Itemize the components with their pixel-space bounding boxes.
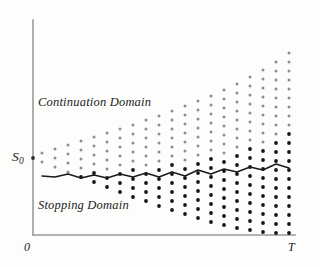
lattice-node-continuation (145, 164, 148, 167)
lattice-node-stopping (157, 186, 161, 190)
lattice-node-continuation (223, 116, 226, 119)
lattice-node-continuation (236, 128, 239, 131)
s0-tick-mark (31, 156, 35, 160)
lattice-node-stopping (144, 190, 148, 194)
lattice-node-continuation (223, 134, 226, 137)
lattice-node-stopping (287, 150, 291, 154)
lattice-node-continuation (275, 106, 278, 109)
lattice-node-continuation (262, 96, 265, 99)
lattice-node-stopping (261, 185, 265, 189)
lattice-node-stopping (287, 204, 291, 208)
lattice-node-continuation (197, 154, 200, 157)
lattice-node-stopping (222, 214, 226, 218)
lattice-node-continuation (184, 150, 187, 153)
s0-subscript-text: 0 (19, 156, 24, 166)
lattice-node-stopping (209, 220, 213, 224)
lattice-node-continuation (184, 159, 187, 162)
lattice-node-continuation (132, 160, 135, 163)
lattice-node-continuation (119, 146, 122, 149)
lattice-node-stopping (183, 185, 187, 189)
lattice-node-stopping (248, 156, 252, 160)
lattice-node-stopping (248, 183, 252, 187)
lattice-node-continuation (158, 133, 161, 136)
lattice-node-stopping (222, 178, 226, 182)
lattice-node-stopping (287, 213, 291, 217)
lattice-node-continuation (275, 133, 278, 136)
lattice-node-stopping (287, 159, 291, 163)
lattice-node-continuation (67, 171, 70, 174)
lattice-node-continuation (184, 105, 187, 108)
lattice-node-stopping (209, 193, 213, 197)
lattice-node-continuation (197, 100, 200, 103)
lattice-node-stopping (274, 213, 278, 217)
lattice-node-continuation (210, 113, 213, 116)
lattice-node-stopping (274, 168, 278, 172)
lattice-node-stopping (274, 186, 278, 190)
lattice-node-stopping (261, 158, 265, 162)
lattice-node-continuation (41, 161, 44, 164)
lattice-node-stopping (170, 181, 174, 185)
lattice-node-continuation (275, 79, 278, 82)
lattice-node-continuation (236, 119, 239, 122)
lattice-node-stopping (235, 181, 239, 185)
lattice-node-stopping (235, 208, 239, 212)
lattice-node-continuation (210, 104, 213, 107)
lattice-node-stopping (183, 194, 187, 198)
lattice-node-stopping (261, 212, 265, 216)
lattice-node-continuation (80, 167, 83, 170)
lattice-node-continuation (249, 112, 252, 115)
lattice-node-stopping (261, 203, 265, 207)
lattice-node-continuation (288, 79, 291, 82)
lattice-node-stopping (196, 216, 200, 220)
lattice-node-continuation (210, 140, 213, 143)
s0-axis-label: S0 (12, 149, 24, 166)
lattice-node-stopping (170, 208, 174, 212)
lattice-node-continuation (210, 131, 213, 134)
lattice-node-continuation (262, 87, 265, 90)
lattice-node-continuation (119, 155, 122, 158)
continuation-domain-label: Continuation Domain (38, 95, 151, 110)
lattice-node-continuation (67, 144, 70, 147)
lattice-node-continuation (262, 69, 265, 72)
lattice-node-stopping (274, 204, 278, 208)
lattice-node-stopping (131, 195, 135, 199)
lattice-node-stopping (248, 219, 252, 223)
lattice-node-stopping (183, 212, 187, 216)
lattice-node-continuation (275, 70, 278, 73)
lattice-node-stopping (92, 180, 96, 184)
lattice-node-continuation (184, 123, 187, 126)
lattice-node-continuation (210, 149, 213, 152)
lattice-node-continuation (67, 162, 70, 165)
lattice-node-continuation (262, 132, 265, 135)
lattice-node-continuation (132, 151, 135, 154)
lattice-node-continuation (158, 151, 161, 154)
lattice-node-continuation (171, 155, 174, 158)
lattice-node-continuation (275, 88, 278, 91)
lattice-node-continuation (119, 137, 122, 140)
lattice-node-continuation (119, 128, 122, 131)
lattice-node-continuation (67, 153, 70, 156)
lattice-node-stopping (274, 177, 278, 181)
lattice-node-stopping (196, 162, 200, 166)
lattice-node-stopping (170, 199, 174, 203)
lattice-node-continuation (275, 115, 278, 118)
lattice-node-stopping (222, 187, 226, 191)
lattice-node-continuation (184, 132, 187, 135)
lattice-plot (0, 0, 320, 267)
lattice-node-stopping (287, 195, 291, 199)
lattice-node-continuation (171, 137, 174, 140)
lattice-node-stopping (248, 228, 252, 232)
lattice-node-stopping (170, 190, 174, 194)
lattice-node-continuation (210, 122, 213, 125)
lattice-node-continuation (223, 98, 226, 101)
lattice-node-stopping (131, 186, 135, 190)
lattice-node-continuation (93, 136, 96, 139)
lattice-node-continuation (223, 125, 226, 128)
lattice-node-stopping (131, 168, 135, 172)
lattice-node-stopping (196, 189, 200, 193)
lattice-node-continuation (106, 141, 109, 144)
lattice-node-continuation (171, 128, 174, 131)
lattice-node-continuation (236, 83, 239, 86)
lattice-node-stopping (196, 198, 200, 202)
lattice-node-continuation (262, 78, 265, 81)
